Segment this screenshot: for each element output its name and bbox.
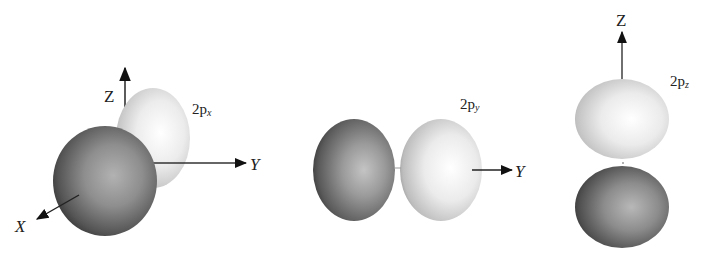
x-axis-label: X xyxy=(14,217,26,236)
lobe-right-light xyxy=(400,119,482,221)
z-axis-label: Z xyxy=(616,11,626,30)
y-axis-label: Y xyxy=(515,162,526,181)
orbital-label-2py: 2py xyxy=(460,96,480,113)
lobe-front-dark xyxy=(53,126,157,236)
panel-2px: Z Y X 2px xyxy=(14,68,261,236)
nodal-point xyxy=(622,162,624,164)
orbital-diagram: Z Y X 2px Y 2py Z 2pz xyxy=(0,0,712,267)
y-axis-label: Y xyxy=(250,155,261,174)
orbital-label-2px: 2px xyxy=(192,101,212,118)
lobe-bottom-dark xyxy=(575,166,669,248)
orbital-label-2pz: 2pz xyxy=(670,73,689,90)
panel-2pz: Z 2pz xyxy=(575,11,689,248)
z-axis-label: Z xyxy=(104,87,114,106)
lobe-left-dark xyxy=(313,119,395,221)
panel-2py: Y 2py xyxy=(313,96,526,221)
lobe-top-light xyxy=(575,79,669,159)
